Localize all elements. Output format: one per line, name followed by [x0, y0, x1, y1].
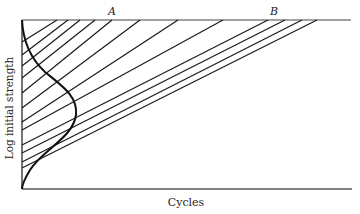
strength-cycles-diagram: A B Cycles Log initial strength — [0, 0, 360, 214]
y-axis-label: Log initial strength — [3, 56, 15, 159]
decay-line-4 — [22, 20, 95, 78]
label-point-b: B — [269, 5, 278, 18]
axes — [22, 20, 352, 189]
decay-line-1 — [22, 20, 57, 42]
x-axis-label: Cycles — [168, 196, 205, 209]
decay-line-3 — [22, 20, 80, 66]
label-point-a: A — [107, 5, 116, 18]
strength-decay-lines — [22, 20, 317, 168]
decay-line-11 — [22, 20, 302, 162]
decay-line-7 — [22, 20, 178, 122]
